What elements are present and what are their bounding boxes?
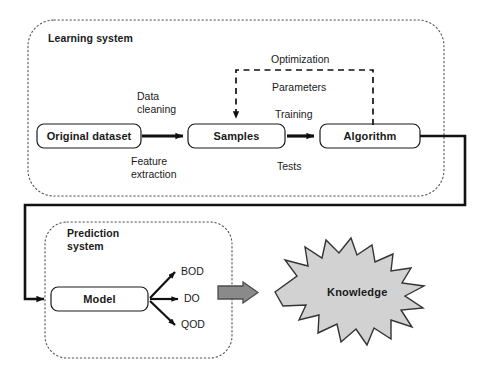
edge-label-data-cleaning-line2: cleaning [137,103,176,116]
output-label-do: DO [184,292,200,305]
edge-label-tests: Tests [277,160,302,173]
edge-label-feature-extraction-line2: extraction [131,168,177,181]
diagram-canvas: Learning system Prediction system Origin… [0,0,485,385]
prediction-system-title-line1: Prediction [67,227,119,240]
edge-label-training: Training [275,108,313,121]
edge-label-feature-extraction-line1: Feature [131,155,167,168]
arrow-model-to-bod [150,272,175,298]
node-label-original-dataset: Original dataset [37,130,141,143]
diagram-vector-layer [0,0,485,385]
node-label-model: Model [51,293,148,306]
edge-label-data-cleaning-line1: Data [137,90,159,103]
arrow-model-to-qod [150,301,175,325]
node-label-samples: Samples [188,130,285,143]
output-label-bod: BOD [181,265,204,278]
edge-label-parameters: Parameters [272,81,326,94]
output-label-qod: QOD [181,318,205,331]
edge-label-optimization: Optimization [271,53,329,66]
node-label-algorithm: Algorithm [320,130,420,143]
prediction-system-title-line2: system [67,240,104,253]
knowledge-burst-label: Knowledge [327,286,387,299]
learning-system-title: Learning system [48,32,133,45]
knowledge-block-arrow [218,282,258,303]
learning-system-container [28,20,444,196]
